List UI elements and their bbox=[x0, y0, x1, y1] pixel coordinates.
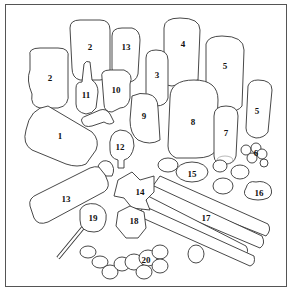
label-2a: 2 bbox=[48, 74, 53, 83]
label-12: 12 bbox=[116, 143, 125, 152]
label-18: 18 bbox=[130, 217, 139, 226]
label-5b: 5 bbox=[255, 107, 260, 116]
blob-2 bbox=[213, 160, 227, 172]
label-8: 8 bbox=[191, 118, 196, 127]
label-11: 11 bbox=[82, 91, 91, 100]
label-13b: 13 bbox=[62, 195, 71, 204]
label-1: 1 bbox=[58, 132, 63, 141]
label-9: 9 bbox=[142, 112, 147, 121]
label-6: 6 bbox=[254, 149, 259, 158]
shape-6-e bbox=[260, 159, 268, 167]
shape-20-i bbox=[136, 265, 152, 279]
label-19: 19 bbox=[89, 214, 98, 223]
label-7: 7 bbox=[224, 129, 229, 138]
blob-4 bbox=[213, 178, 233, 194]
label-17: 17 bbox=[202, 214, 211, 223]
label-10: 10 bbox=[112, 86, 121, 95]
label-3: 3 bbox=[155, 71, 160, 80]
line-drawing bbox=[0, 0, 291, 292]
shape-4 bbox=[164, 18, 200, 86]
label-5a: 5 bbox=[223, 62, 228, 71]
shape-20-h bbox=[152, 259, 168, 273]
shape-20-g bbox=[152, 245, 168, 259]
shape-14 bbox=[114, 172, 154, 210]
label-14: 14 bbox=[136, 188, 145, 197]
blob-5 bbox=[188, 245, 204, 263]
blob-3 bbox=[231, 165, 249, 179]
shape-20-a bbox=[80, 246, 96, 258]
blob-1 bbox=[158, 158, 178, 172]
label-13a: 13 bbox=[122, 43, 131, 52]
label-4: 4 bbox=[181, 40, 186, 49]
label-15: 15 bbox=[188, 170, 197, 179]
label-2b: 2 bbox=[88, 43, 93, 52]
label-20: 20 bbox=[142, 256, 151, 265]
label-16: 16 bbox=[255, 189, 264, 198]
